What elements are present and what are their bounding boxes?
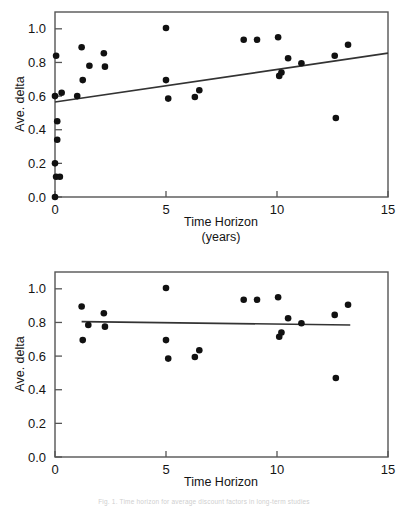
- x-tick-label: 10: [270, 202, 284, 217]
- x-tick-label: 10: [270, 462, 284, 477]
- y-tick-label: 0.8: [28, 55, 46, 70]
- y-axis-title: Ave. delta: [13, 76, 27, 131]
- data-point: [52, 194, 59, 201]
- data-points-bottom: [78, 285, 351, 382]
- data-point: [57, 174, 64, 181]
- scatter-plot-bottom-svg: 0510150.00.20.40.60.81.0 Time Horizon Av…: [0, 258, 408, 488]
- data-point: [298, 320, 305, 327]
- x-tick-label: 0: [51, 462, 58, 477]
- data-point: [78, 303, 85, 310]
- data-point: [345, 41, 352, 48]
- axis-tick-labels-bottom: 0510150.00.20.40.60.81.0: [28, 281, 395, 477]
- data-point: [331, 312, 338, 319]
- data-point: [192, 354, 199, 361]
- data-point: [54, 137, 61, 144]
- axes-frame: [55, 272, 388, 457]
- data-point: [163, 285, 170, 292]
- data-point: [102, 63, 109, 70]
- data-point: [165, 355, 172, 362]
- data-point: [79, 77, 86, 84]
- data-point: [163, 337, 170, 344]
- x-tick-label: 0: [51, 202, 58, 217]
- data-points-top: [52, 25, 352, 201]
- x-tick-label: 15: [381, 462, 395, 477]
- data-point: [196, 87, 203, 94]
- data-point: [52, 93, 59, 100]
- x-tick-label: 5: [162, 462, 169, 477]
- data-point: [101, 50, 108, 57]
- data-point: [254, 296, 261, 303]
- fit-line: [55, 53, 388, 102]
- axis-tick-labels-top: 0510150.00.20.40.60.81.0: [28, 21, 395, 217]
- data-point: [333, 115, 340, 122]
- data-point: [285, 315, 292, 322]
- axes-frame: [55, 12, 388, 197]
- y-tick-label: 0.6: [28, 349, 46, 364]
- regression-line-bottom: [82, 322, 351, 325]
- scatter-plot-top-svg: 0510150.00.20.40.60.81.0 Time Horizon (y…: [0, 0, 408, 258]
- data-point: [58, 89, 65, 96]
- data-point: [345, 301, 352, 308]
- y-tick-label: 0.6: [28, 89, 46, 104]
- data-point: [331, 52, 338, 59]
- data-point: [163, 77, 170, 84]
- scatter-panel-top: 0510150.00.20.40.60.81.0 Time Horizon (y…: [0, 0, 408, 258]
- data-point: [165, 95, 172, 102]
- data-point: [102, 323, 109, 330]
- y-axis-title: Ave. delta: [13, 336, 27, 391]
- data-point: [333, 375, 340, 382]
- data-point: [196, 347, 203, 354]
- x-axis-title: Time Horizon: [184, 215, 258, 229]
- plot-frame-bottom: [55, 272, 388, 457]
- x-axis-title-units: (years): [202, 230, 241, 244]
- data-point: [79, 337, 86, 344]
- data-point: [53, 52, 60, 59]
- y-tick-label: 0.0: [28, 190, 46, 205]
- data-point: [86, 63, 93, 70]
- data-point: [298, 60, 305, 67]
- y-tick-label: 0.8: [28, 315, 46, 330]
- x-tick-label: 5: [162, 202, 169, 217]
- y-tick-label: 0.2: [28, 416, 46, 431]
- plot-frame-top: [55, 12, 388, 197]
- regression-line-top: [55, 53, 388, 102]
- data-point: [285, 55, 292, 62]
- data-point: [85, 322, 92, 329]
- data-point: [240, 36, 247, 43]
- data-point: [192, 94, 199, 101]
- data-point: [278, 69, 285, 76]
- y-tick-label: 0.2: [28, 156, 46, 171]
- y-tick-label: 0.4: [28, 122, 46, 137]
- data-point: [52, 160, 59, 167]
- y-tick-label: 0.0: [28, 450, 46, 465]
- data-point: [78, 44, 85, 51]
- data-point: [240, 296, 247, 303]
- data-point: [54, 118, 61, 125]
- data-point: [254, 36, 261, 43]
- fit-line: [82, 322, 351, 325]
- data-point: [163, 25, 170, 32]
- y-tick-label: 1.0: [28, 281, 46, 296]
- data-point: [278, 329, 285, 336]
- x-axis-title: Time Horizon: [184, 475, 258, 488]
- data-point: [275, 34, 282, 41]
- figure-container: 0510150.00.20.40.60.81.0 Time Horizon (y…: [0, 0, 408, 516]
- y-tick-label: 0.4: [28, 382, 46, 397]
- figure-caption: Fig. 1. Time horizon for average discoun…: [0, 498, 408, 506]
- data-point: [275, 294, 282, 301]
- scatter-panel-bottom: 0510150.00.20.40.60.81.0 Time Horizon Av…: [0, 258, 408, 488]
- data-point: [74, 93, 81, 100]
- y-tick-label: 1.0: [28, 21, 46, 36]
- x-tick-label: 15: [381, 202, 395, 217]
- data-point: [101, 310, 108, 317]
